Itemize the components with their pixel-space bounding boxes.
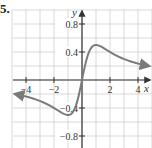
x-tick-label: 2 (108, 84, 113, 95)
y-tick-label: −0.8 (60, 131, 78, 142)
x-tick-label: −2 (49, 84, 60, 95)
y-tick-label: 0.4 (66, 47, 79, 58)
x-axis-label: x (143, 82, 149, 94)
y-axis-label: y (71, 6, 77, 18)
x-tick-label: 4 (136, 84, 141, 95)
y-tick-label: 0.8 (66, 19, 79, 30)
x-tick-label: −4 (21, 84, 32, 95)
function-graph: −4−2240.80.4−0.4−0.8 x y (0, 0, 152, 148)
